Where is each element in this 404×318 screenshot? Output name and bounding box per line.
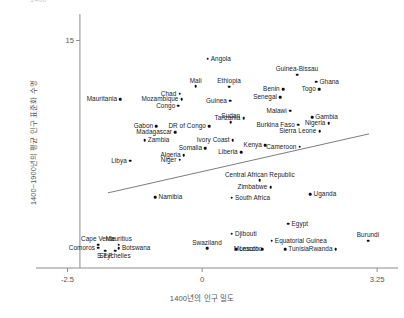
data-point-label: Guinea bbox=[206, 98, 227, 104]
data-point-label: Zambia bbox=[148, 137, 170, 143]
data-point-label: Botswana bbox=[122, 245, 150, 251]
data-point-label: Seychelles bbox=[99, 253, 130, 259]
data-point-label: Rwanda bbox=[309, 246, 333, 252]
x-tick-label: -2.5 bbox=[61, 275, 74, 284]
x-tick-label: 3.25 bbox=[370, 275, 385, 284]
data-point[interactable] bbox=[318, 130, 321, 133]
data-point[interactable] bbox=[178, 159, 181, 162]
data-point-label: Equatorial Guinea bbox=[275, 237, 327, 243]
data-point-label: Liberia bbox=[218, 149, 238, 155]
data-point[interactable] bbox=[143, 139, 146, 142]
data-point-label: Malawi bbox=[267, 107, 287, 113]
data-point[interactable] bbox=[183, 154, 186, 157]
y-tick-label: 15 bbox=[50, 36, 74, 45]
data-point[interactable] bbox=[269, 186, 272, 189]
data-point-label: Comoros bbox=[69, 244, 95, 250]
data-point-label: Sierra Leone bbox=[279, 128, 316, 134]
data-point-label: Ghana bbox=[320, 79, 339, 85]
data-point-label: Zimbabwe bbox=[237, 184, 267, 190]
data-point[interactable] bbox=[289, 109, 292, 112]
data-point[interactable] bbox=[180, 98, 183, 101]
data-point[interactable] bbox=[284, 248, 287, 251]
data-point[interactable] bbox=[204, 147, 207, 150]
data-point[interactable] bbox=[309, 193, 312, 196]
data-point-label: Burundi bbox=[357, 232, 379, 238]
data-point[interactable] bbox=[270, 239, 273, 242]
y-axis-title: 1400~1900년의 평균 인구 표준화 수명 bbox=[30, 38, 37, 248]
data-point-label: Angola bbox=[211, 56, 231, 62]
data-point-label: DR of Congo bbox=[168, 123, 206, 129]
data-point-label: Swaziland bbox=[192, 240, 222, 246]
data-point[interactable] bbox=[258, 179, 261, 182]
data-point-label: Ivory Coast bbox=[197, 137, 230, 143]
data-point-label: Senegal bbox=[253, 94, 277, 100]
data-point-label: South Africa bbox=[235, 195, 270, 201]
data-point[interactable] bbox=[154, 196, 157, 199]
data-point[interactable] bbox=[230, 196, 233, 199]
data-point[interactable] bbox=[117, 247, 120, 250]
data-point[interactable] bbox=[297, 123, 300, 126]
data-point[interactable] bbox=[178, 93, 181, 96]
x-axis-title: 1400년의 인구 밀도 bbox=[0, 292, 404, 303]
data-point[interactable] bbox=[318, 88, 321, 91]
data-point[interactable] bbox=[229, 100, 232, 103]
data-point-label: Libya bbox=[111, 157, 127, 163]
data-point[interactable] bbox=[240, 151, 243, 154]
data-point-label: Mali bbox=[190, 77, 202, 83]
data-point[interactable] bbox=[296, 74, 299, 77]
data-point-label: Ethiopia bbox=[217, 78, 241, 84]
data-point[interactable] bbox=[242, 117, 245, 120]
data-point[interactable] bbox=[155, 125, 158, 128]
data-point-label: Egypt bbox=[292, 221, 309, 227]
scatter-chart: 1400 1400~1900년의 평균 인구 표준화 수명 1400년의 인구 … bbox=[0, 0, 404, 318]
data-point[interactable] bbox=[311, 116, 314, 119]
data-point-label: Sudan bbox=[221, 113, 240, 119]
data-point-label: Guinea-Bissau bbox=[276, 66, 319, 72]
data-point[interactable] bbox=[261, 248, 264, 251]
data-point[interactable] bbox=[367, 239, 370, 242]
data-point-label: Niger bbox=[161, 157, 177, 163]
data-point[interactable] bbox=[208, 125, 211, 128]
data-point[interactable] bbox=[206, 57, 209, 60]
data-point[interactable] bbox=[298, 145, 301, 148]
data-point-label: Central African Republic bbox=[225, 171, 295, 177]
data-point[interactable] bbox=[282, 88, 285, 91]
data-point[interactable] bbox=[97, 246, 100, 249]
data-point[interactable] bbox=[279, 96, 282, 99]
data-point-label: Mauritius bbox=[106, 236, 132, 242]
data-point[interactable] bbox=[194, 85, 197, 88]
data-point[interactable] bbox=[129, 159, 132, 162]
data-point-label: Somalia bbox=[179, 145, 202, 151]
data-point-label: Kenya bbox=[244, 142, 262, 148]
data-point[interactable] bbox=[334, 248, 337, 251]
data-point-label: Tunisia bbox=[288, 246, 309, 252]
data-point-label: Uganda bbox=[314, 191, 337, 197]
data-point-label: Congo bbox=[156, 103, 175, 109]
data-point[interactable] bbox=[119, 98, 122, 101]
data-point-label: Benin bbox=[263, 86, 280, 92]
data-point-label: Namibia bbox=[159, 194, 183, 200]
data-point[interactable] bbox=[232, 139, 235, 142]
data-point-label: Madagascar bbox=[136, 129, 172, 135]
data-point-label: Nigeria bbox=[305, 120, 326, 126]
data-point[interactable] bbox=[327, 122, 330, 125]
plot-canvas bbox=[0, 0, 404, 318]
data-point[interactable] bbox=[315, 81, 318, 84]
data-point-label: Cameroon bbox=[266, 143, 296, 149]
data-point[interactable] bbox=[177, 104, 180, 107]
data-point[interactable] bbox=[206, 247, 209, 250]
x-tick-label: 0 bbox=[200, 275, 204, 284]
data-point[interactable] bbox=[117, 244, 120, 247]
data-point-label: Morocco bbox=[234, 246, 259, 252]
data-point-label: Djibouti bbox=[235, 230, 257, 236]
data-point-label: Mauritania bbox=[87, 96, 117, 102]
data-point[interactable] bbox=[287, 222, 290, 225]
data-point[interactable] bbox=[174, 131, 177, 134]
data-point[interactable] bbox=[229, 121, 232, 124]
data-point[interactable] bbox=[230, 232, 233, 235]
data-point-label: Togo bbox=[302, 86, 316, 92]
data-point[interactable] bbox=[228, 86, 231, 89]
